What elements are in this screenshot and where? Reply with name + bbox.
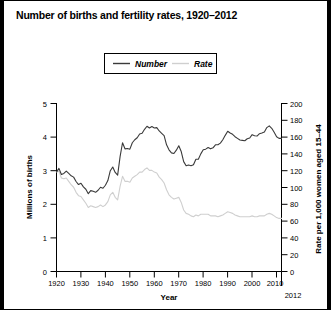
x-ticklabel-2000: 2000: [244, 279, 261, 288]
y-right-ticklabel-140: 140: [290, 150, 303, 159]
series-line-rate: [57, 168, 282, 219]
chart-plot-area: Number Rate 5 4 3 2 1 0 Millions of birt…: [4, 1, 331, 310]
y-left-axis-title: Millions of births: [25, 154, 34, 219]
series-line-number: [57, 126, 282, 194]
x-ticks: [57, 272, 277, 278]
y-left-ticklabel-1: 1: [43, 234, 47, 243]
y-left-ticklabel-4: 4: [43, 133, 47, 142]
x-ticklabel-2012-end: 2012: [285, 291, 302, 300]
y-left-ticklabel-0: 0: [43, 268, 47, 277]
y-right-ticklabel-120: 120: [290, 167, 303, 176]
y-right-ticks: [282, 104, 288, 272]
y-right-ticklabel-40: 40: [290, 234, 298, 243]
y-right-ticklabel-60: 60: [290, 217, 298, 226]
x-ticklabel-1990: 1990: [219, 279, 236, 288]
legend-label-rate: Rate: [194, 59, 213, 69]
y-right-ticklabel-160: 160: [290, 133, 303, 142]
x-ticklabel-1960: 1960: [146, 279, 163, 288]
x-ticklabel-1940: 1940: [97, 279, 114, 288]
legend-label-number: Number: [135, 59, 168, 69]
x-ticklabel-1950: 1950: [121, 279, 138, 288]
x-ticklabel-1980: 1980: [195, 279, 212, 288]
y-right-ticklabel-20: 20: [290, 251, 298, 260]
y-right-ticklabel-80: 80: [290, 200, 298, 209]
x-ticklabel-1920: 1920: [48, 279, 65, 288]
y-left-ticks: [51, 104, 57, 272]
y-left-ticklabel-5: 5: [43, 100, 47, 109]
x-axis-title: Year: [161, 293, 178, 302]
y-right-axis-title: Rate per 1,000 women aged 15–44: [314, 124, 323, 254]
x-ticklabel-1930: 1930: [73, 279, 90, 288]
x-ticklabel-1970: 1970: [170, 279, 187, 288]
y-right-ticklabel-180: 180: [290, 116, 303, 125]
y-right-ticklabel-100: 100: [290, 184, 303, 193]
y-left-ticklabel-2: 2: [43, 200, 47, 209]
y-right-ticklabel-0: 0: [290, 268, 294, 277]
y-left-ticklabel-3: 3: [43, 167, 47, 176]
figure-container: Number of births and fertility rates, 19…: [0, 0, 331, 310]
chart-legend: Number Rate: [105, 54, 217, 74]
y-right-ticklabel-200: 200: [290, 100, 303, 109]
x-ticklabel-2010: 2010: [267, 279, 284, 288]
